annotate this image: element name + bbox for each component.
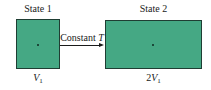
- process-text: Constant: [60, 32, 96, 43]
- state1-center-dot: [37, 44, 39, 46]
- process-variable: T: [98, 32, 104, 43]
- volume-subscript: 1: [39, 77, 43, 85]
- state1-volume-label: V1: [16, 73, 60, 83]
- state2-box: [105, 20, 202, 69]
- state1-title: State 1: [16, 4, 60, 14]
- volume-subscript: 1: [157, 77, 161, 85]
- process-label: Constant T: [60, 33, 104, 43]
- state2-volume-label: 2V1: [105, 73, 202, 83]
- arrow-head-icon: [99, 43, 104, 47]
- state2-title: State 2: [105, 4, 202, 14]
- state1-box: [16, 19, 60, 69]
- state2-center-dot: [152, 44, 154, 46]
- arrow-shaft: [60, 45, 100, 46]
